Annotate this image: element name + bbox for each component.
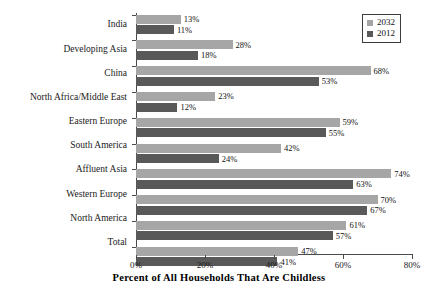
bar-groups: 13%11%28%18%68%53%23%12%59%55%42%24%74%6… [136,13,412,255]
x-axis-tick [274,255,275,259]
x-axis-tick [343,255,344,259]
category-label: North America [0,207,132,231]
bar-2032-eastern-europe[interactable] [136,118,340,127]
x-axis-tick [205,255,206,259]
bar-2012-affluent-asia[interactable] [136,180,353,189]
bar-value-label: 67% [367,205,386,215]
bar-value-label: 24% [219,154,238,164]
legend-swatch-icon [367,20,373,26]
bar-value-label: 23% [215,91,234,101]
bar-2032-developing-asia[interactable] [136,40,233,49]
bar-2012-south-america[interactable] [136,154,219,163]
bar-value-label: 59% [340,117,359,127]
bar-value-label: 42% [281,143,300,153]
bar-value-label: 70% [378,195,397,205]
x-axis-tick-label: 80% [404,260,421,270]
bar-2012-india[interactable] [136,25,174,34]
bar-value-label: 74% [391,169,410,179]
bar-track: 55% [136,128,412,137]
bar-group: 42%24% [136,144,412,168]
bar-value-label: 11% [174,25,192,35]
bar-track: 53% [136,77,412,86]
bar-2032-western-europe[interactable] [136,195,378,204]
bar-track: 70% [136,195,412,204]
bar-value-label: 12% [177,102,196,112]
bar-chart: India Developing Asia China North Africa… [0,0,438,295]
legend-item-2012[interactable]: 2012 [367,28,395,39]
x-axis-tick [412,255,413,259]
bar-2012-north-africa-middle-east[interactable] [136,103,177,112]
legend-label: 2012 [377,29,395,38]
category-label: Eastern Europe [0,110,132,134]
category-label: Affluent Asia [0,158,132,182]
bar-value-label: 13% [181,14,200,24]
bar-2012-china[interactable] [136,77,319,86]
bar-track: 57% [136,231,412,240]
bar-group: 59%55% [136,118,412,142]
bar-track: 74% [136,169,412,178]
bar-track: 67% [136,206,412,215]
bar-2032-china[interactable] [136,66,371,75]
bar-group: 70%67% [136,195,412,219]
legend-swatch-icon [367,31,373,37]
bar-value-label: 28% [233,40,252,50]
bar-track: 24% [136,154,412,163]
category-axis-labels: India Developing Asia China North Africa… [0,13,132,255]
bar-2032-affluent-asia[interactable] [136,169,391,178]
bar-value-label: 57% [333,231,352,241]
bar-value-label: 63% [353,179,372,189]
bar-track: 42% [136,144,412,153]
bar-track: 12% [136,103,412,112]
legend-label: 2032 [377,18,395,27]
bar-2012-western-europe[interactable] [136,206,367,215]
bar-value-label: 68% [371,66,390,76]
bar-value-label: 53% [319,76,338,86]
bar-2032-south-america[interactable] [136,144,281,153]
bar-track: 63% [136,180,412,189]
bar-group: 74%63% [136,169,412,193]
category-label: China [0,61,132,85]
x-axis-tick-label: 40% [266,260,283,270]
x-axis-tick-label: 60% [335,260,352,270]
bar-track: 61% [136,221,412,230]
bar-group: 28%18% [136,40,412,64]
bar-track: 59% [136,118,412,127]
category-label: Western Europe [0,182,132,206]
category-label: Total [0,231,132,255]
bar-track: 68% [136,66,412,75]
category-label: India [0,13,132,37]
category-label: North Africa/Middle East [0,86,132,110]
legend-item-2032[interactable]: 2032 [367,17,395,28]
bar-track: 23% [136,92,412,101]
bar-2012-north-america[interactable] [136,231,333,240]
bar-group: 23%12% [136,92,412,116]
bar-2012-eastern-europe[interactable] [136,128,326,137]
category-label: South America [0,134,132,158]
bar-2012-developing-asia[interactable] [136,51,198,60]
bar-group: 61%57% [136,221,412,245]
category-label: Developing Asia [0,37,132,61]
bar-2032-north-america[interactable] [136,221,346,230]
x-axis-tick-label: 20% [197,260,214,270]
x-axis-title: Percent of All Households That Are Child… [0,272,438,283]
bar-value-label: 61% [346,220,365,230]
bar-2032-north-africa-middle-east[interactable] [136,92,215,101]
x-axis-tick [136,255,137,259]
bar-value-label: 55% [326,128,345,138]
bar-track: 18% [136,51,412,60]
x-axis-tick-label: 0% [130,260,142,270]
bar-value-label: 18% [198,50,217,60]
legend: 2032 2012 [362,14,401,43]
bar-2032-india[interactable] [136,15,181,24]
bar-group: 68%53% [136,66,412,90]
plot-area: 13%11%28%18%68%53%23%12%59%55%42%24%74%6… [136,13,412,255]
